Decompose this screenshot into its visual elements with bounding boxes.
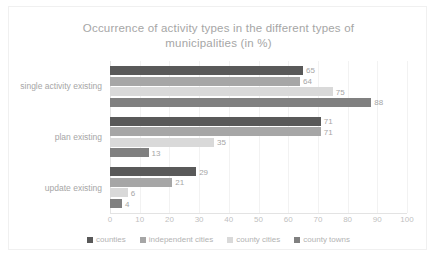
bar [110, 66, 303, 75]
gridline [348, 61, 349, 213]
bar-value-label: 65 [306, 66, 315, 75]
bar [110, 178, 172, 187]
bar [110, 148, 149, 157]
bar [110, 167, 196, 176]
value-axis-tick-label: 10 [135, 215, 144, 224]
chart-title: Occurrence of activity types in the diff… [9, 21, 428, 51]
legend-swatch-icon [140, 237, 146, 243]
bar-value-label: 71 [324, 127, 333, 136]
legend-label: independent cities [149, 235, 214, 244]
bar-value-label: 88 [374, 98, 383, 107]
legend-item[interactable]: county cities [227, 235, 280, 244]
bar [110, 199, 122, 208]
value-axis-tick-label: 80 [343, 215, 352, 224]
category-axis-label: update existing [45, 183, 102, 193]
legend-label: county cities [236, 235, 280, 244]
bar [110, 127, 321, 136]
legend-item[interactable]: independent cities [140, 235, 214, 244]
bar [110, 87, 333, 96]
legend-label: counties [96, 235, 126, 244]
legend-swatch-icon [294, 237, 300, 243]
category-axis-label: single activity existing [20, 81, 102, 91]
category-axis: single activity existingplan existingupd… [9, 61, 106, 213]
bar [110, 138, 214, 147]
legend-label: county towns [303, 235, 350, 244]
gridline [407, 61, 408, 213]
bar-value-label: 21 [175, 178, 184, 187]
bar [110, 117, 321, 126]
value-axis-tick-label: 60 [284, 215, 293, 224]
value-axis-tick-label: 50 [254, 215, 263, 224]
legend-swatch-icon [87, 237, 93, 243]
gridline [377, 61, 378, 213]
bar-value-label: 64 [303, 77, 312, 86]
bar [110, 188, 128, 197]
value-axis-tick-label: 30 [195, 215, 204, 224]
bar-value-label: 4 [125, 199, 129, 208]
value-axis-tick-label: 70 [313, 215, 322, 224]
value-axis-line [110, 213, 407, 214]
bar-value-label: 71 [324, 117, 333, 126]
bar-value-label: 13 [152, 148, 161, 157]
value-axis-tick-label: 90 [373, 215, 382, 224]
chart-container: Occurrence of activity types in the diff… [8, 6, 427, 250]
value-axis-tick-label: 20 [165, 215, 174, 224]
bar-value-label: 29 [199, 167, 208, 176]
gridline [318, 61, 319, 213]
value-axis-tick-label: 100 [400, 215, 413, 224]
category-axis-label: plan existing [55, 132, 102, 142]
bar [110, 98, 371, 107]
legend-item[interactable]: counties [87, 235, 126, 244]
legend-swatch-icon [227, 237, 233, 243]
bar [110, 77, 300, 86]
chart-legend: countiesindependent citiescounty citiesc… [9, 235, 428, 244]
bar-value-label: 35 [217, 138, 226, 147]
value-axis-ticks: 0102030405060708090100 [110, 215, 407, 229]
plot-area: 6564758871713513292164 [110, 61, 407, 213]
bar-value-label: 6 [131, 188, 135, 197]
value-axis-tick-label: 0 [108, 215, 112, 224]
legend-item[interactable]: county towns [294, 235, 350, 244]
bar-value-label: 75 [336, 87, 345, 96]
value-axis-tick-label: 40 [224, 215, 233, 224]
